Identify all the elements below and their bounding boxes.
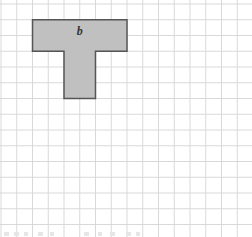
shape-label: b (77, 24, 83, 38)
grid-diagram: b (0, 0, 252, 237)
footer-text-fragments (4, 232, 140, 236)
